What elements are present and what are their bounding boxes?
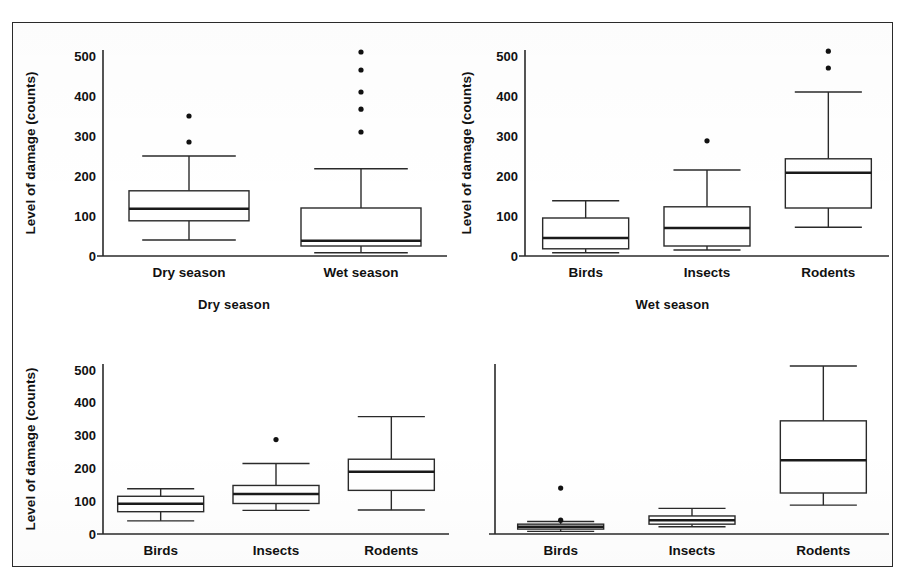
y-tick-label: 0: [89, 249, 96, 264]
y-tick-label: 100: [74, 494, 96, 509]
outlier-point: [186, 113, 191, 118]
y-tick-label: 100: [74, 209, 96, 224]
panel-seasons-overall: 0100200300400500Level of damage (counts)…: [15, 23, 453, 295]
y-tick-label: 200: [74, 461, 96, 476]
y-axis-title: Level of damage (counts): [23, 72, 38, 235]
outlier-point: [704, 138, 709, 143]
y-tick-label: 400: [496, 89, 518, 104]
y-tick-label: 400: [74, 395, 96, 410]
x-category-label: Rodents: [801, 265, 855, 280]
boxplot-pests-overall: 0100200300400500Level of damage (counts)…: [453, 23, 892, 295]
outlier-point: [558, 485, 563, 490]
y-tick-label: 200: [496, 169, 518, 184]
y-tick-label: 300: [74, 129, 96, 144]
y-axis-title: Level of damage (counts): [23, 368, 38, 531]
y-tick-label: 300: [74, 428, 96, 443]
box-iqr: [780, 421, 866, 493]
boxplot-pests-dry-season: 0100200300400500Level of damage (counts)…: [15, 295, 453, 566]
boxplot-seasons-overall: 0100200300400500Level of damage (counts)…: [15, 23, 453, 295]
boxplot-rodents: [780, 366, 866, 505]
x-category-label: Birds: [543, 543, 578, 558]
panel-pests-wet-season: Wet season BirdsInsectsRodents: [453, 295, 892, 566]
x-category-label: Birds: [143, 543, 178, 558]
boxplot-dry-season: [129, 113, 249, 240]
boxplot-birds: [543, 201, 629, 253]
outlier-point: [358, 129, 363, 134]
y-tick-label: 100: [496, 209, 518, 224]
outlier-point: [358, 67, 363, 72]
x-category-label: Rodents: [796, 543, 850, 558]
outlier-point: [358, 89, 363, 94]
outlier-point: [826, 49, 831, 54]
x-category-label: Birds: [568, 265, 603, 280]
box-iqr: [129, 191, 249, 221]
outlier-point: [358, 49, 363, 54]
x-category-label: Rodents: [364, 543, 418, 558]
outlier-point: [273, 437, 278, 442]
box-iqr: [348, 459, 434, 490]
box-iqr: [543, 218, 629, 249]
outlier-point: [826, 65, 831, 70]
y-tick-label: 400: [74, 89, 96, 104]
y-tick-label: 500: [496, 49, 518, 64]
y-tick-label: 0: [511, 249, 518, 264]
outlier-point: [186, 139, 191, 144]
y-tick-label: 500: [74, 49, 96, 64]
boxplot-insects: [664, 138, 750, 250]
boxplot-rodents: [785, 49, 871, 228]
panel-pests-dry-season: Dry season 0100200300400500Level of dama…: [15, 295, 453, 566]
x-category-label: Wet season: [324, 265, 399, 280]
x-category-label: Insects: [669, 543, 716, 558]
box-iqr: [664, 207, 750, 246]
y-tick-label: 300: [496, 129, 518, 144]
outlier-point: [558, 518, 563, 523]
x-category-label: Insects: [684, 265, 731, 280]
panel-pests-overall: 0100200300400500Level of damage (counts)…: [453, 23, 892, 295]
figure-border-frame: 0100200300400500Level of damage (counts)…: [12, 22, 893, 567]
boxplot-rodents: [348, 417, 434, 510]
boxplot-birds: [118, 489, 204, 521]
box-iqr: [785, 159, 871, 208]
outlier-point: [358, 107, 363, 112]
boxplot-pests-wet-season: BirdsInsectsRodents: [453, 295, 892, 566]
y-tick-label: 200: [74, 169, 96, 184]
boxplot-wet-season: [301, 49, 421, 252]
x-category-label: Insects: [253, 543, 300, 558]
boxplot-birds: [518, 485, 604, 531]
x-category-label: Dry season: [153, 265, 226, 280]
boxplot-insects: [233, 437, 319, 510]
y-tick-label: 0: [89, 527, 96, 542]
boxplot-insects: [649, 508, 735, 526]
y-axis-title: Level of damage (counts): [459, 72, 474, 235]
y-tick-label: 500: [74, 363, 96, 378]
